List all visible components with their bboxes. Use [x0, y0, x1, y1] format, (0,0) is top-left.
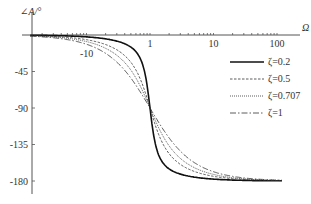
curve-ζ=1 — [30, 36, 282, 180]
phase-plot: 110100 -45-90-135-180 ∠A/° Ω -10 ζ=0.2 ζ… — [0, 0, 311, 204]
legend: ζ=0.2 ζ=0.5 ζ=0.707 ζ=1 — [230, 56, 300, 119]
curve-ζ=0.5 — [30, 36, 282, 181]
x-axis-label: Ω — [302, 22, 309, 33]
x-tick-label: 10 — [209, 38, 219, 49]
y-tick-label: -135 — [10, 139, 28, 150]
curves — [30, 35, 282, 181]
x-tick-label: 100 — [270, 38, 285, 49]
curve-ζ=0.2 — [30, 35, 282, 181]
y-axis-label: ∠A/° — [20, 6, 41, 17]
y-tick-label: -90 — [15, 103, 28, 114]
y-tick-label: -180 — [10, 176, 28, 187]
legend-label: ζ=0.2 — [268, 56, 290, 68]
curve-ζ=0.707 — [30, 36, 282, 181]
y-tick-label: -45 — [15, 66, 28, 77]
legend-label: ζ=0.707 — [268, 90, 300, 102]
legend-label: ζ=1 — [268, 107, 283, 119]
x-tick-label: 1 — [148, 38, 153, 49]
annotation-label: -10 — [80, 48, 93, 59]
legend-label: ζ=0.5 — [268, 73, 290, 85]
y-axis-ticks: -45-90-135-180 — [10, 66, 35, 187]
